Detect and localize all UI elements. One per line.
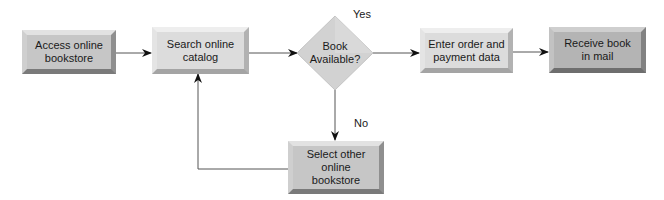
node-label-line: payment data <box>428 51 504 64</box>
node-label-line: bookstore <box>307 174 366 187</box>
node-enter-order-payment: Enter order and payment data <box>420 28 513 73</box>
node-label-line: Select other <box>307 148 366 161</box>
node-label-line: catalog <box>167 51 234 64</box>
edge-select-to-search <box>198 74 288 169</box>
node-label-line: Receive book <box>564 37 631 50</box>
node-search-online-catalog: Search online catalog <box>152 27 249 74</box>
node-label-line: bookstore <box>35 52 103 65</box>
node-receive-book-in-mail: Receive book in mail <box>549 27 646 73</box>
node-label-line: Available? <box>300 53 370 66</box>
node-label-line: Book <box>300 40 370 53</box>
edge-label-yes: Yes <box>353 8 371 20</box>
node-book-available: Book Available? <box>300 40 370 66</box>
node-access-online-bookstore: Access online bookstore <box>22 30 116 74</box>
node-label-line: Search online <box>167 38 234 51</box>
edge-label-no: No <box>354 117 368 129</box>
node-select-other-bookstore: Select other online bookstore <box>288 141 384 194</box>
node-label-line: Access online <box>35 39 103 52</box>
node-label-line: online <box>307 161 366 174</box>
node-label-line: in mail <box>564 50 631 63</box>
node-label-line: Enter order and <box>428 38 504 51</box>
